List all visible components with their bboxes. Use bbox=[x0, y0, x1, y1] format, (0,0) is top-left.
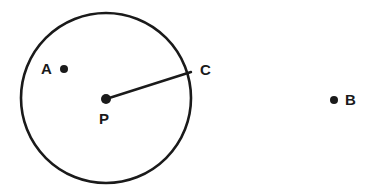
point-dot-b bbox=[330, 96, 338, 104]
radius-segment-pc bbox=[106, 72, 191, 99]
point-label-b: B bbox=[345, 92, 356, 107]
figure-canvas bbox=[0, 0, 381, 194]
geometry-figure: A P C B bbox=[0, 0, 381, 194]
point-label-p: P bbox=[99, 111, 109, 126]
point-label-a: A bbox=[41, 61, 52, 76]
point-dot-a bbox=[60, 65, 68, 73]
point-label-c: C bbox=[200, 62, 211, 77]
point-dot-p bbox=[101, 94, 111, 104]
